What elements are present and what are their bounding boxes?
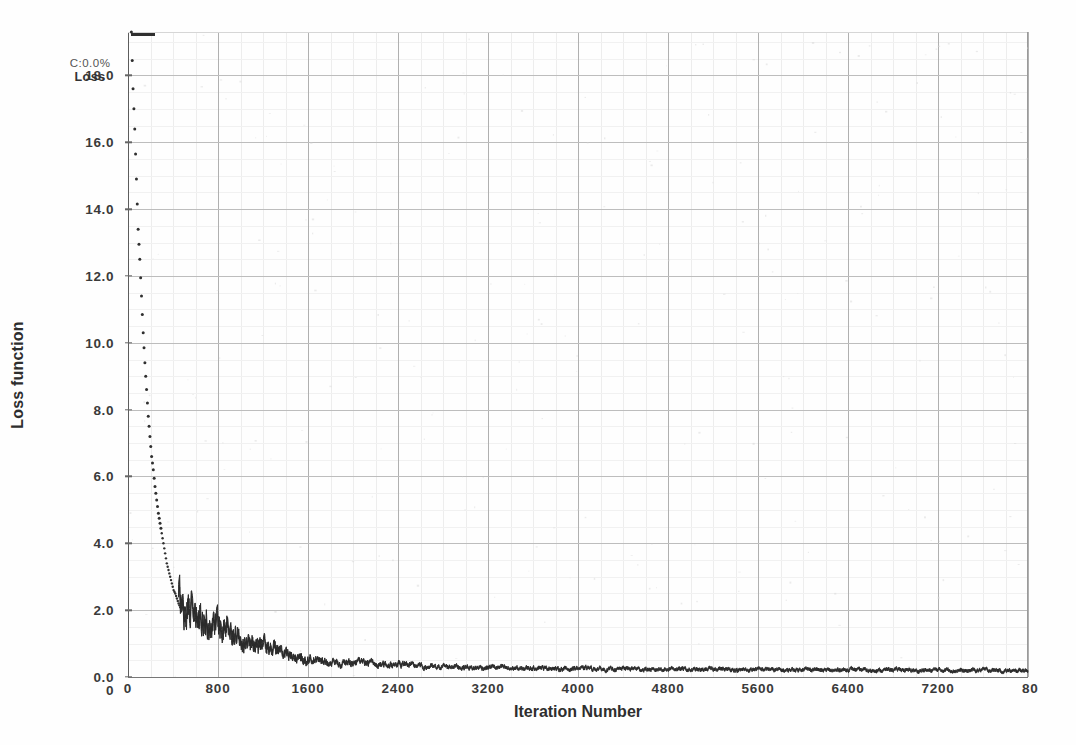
y-tick-label: 6.0	[58, 469, 114, 484]
data-point	[164, 552, 166, 554]
data-point	[156, 505, 159, 508]
data-point	[145, 388, 148, 391]
data-point	[158, 517, 161, 520]
data-point	[169, 576, 171, 578]
data-point	[136, 203, 139, 206]
x-tick-label: 80	[1022, 681, 1039, 696]
data-point	[150, 455, 153, 458]
x-origin-label: 0	[58, 683, 114, 698]
data-point	[148, 425, 151, 428]
data-point	[143, 346, 146, 349]
loss-curve-figure: 080016002400320040004800560064007200800.…	[0, 0, 1076, 745]
data-point	[174, 592, 176, 594]
data-point	[133, 127, 136, 130]
data-point	[171, 582, 173, 584]
data-point	[149, 445, 152, 448]
x-tick-label: 1600	[291, 681, 324, 696]
data-point	[144, 375, 147, 378]
data-point	[161, 532, 163, 534]
y-tick-label: 14.0	[58, 202, 114, 217]
data-point	[153, 477, 156, 480]
data-point	[162, 542, 164, 544]
x-tick-label: 3200	[471, 681, 504, 696]
data-point	[155, 498, 158, 501]
data-point	[157, 512, 160, 515]
x-tick-label: 0	[124, 681, 132, 696]
x-axis-line	[128, 677, 1028, 678]
data-point	[168, 572, 170, 574]
corner-annotation: C:0.0% Loss	[56, 56, 124, 86]
data-point	[159, 527, 162, 530]
loss-trace	[179, 575, 1028, 674]
data-point	[140, 295, 143, 298]
x-tick-label: 6400	[831, 681, 864, 696]
data-point	[166, 566, 168, 568]
data-point	[161, 537, 163, 539]
data-point	[138, 258, 141, 261]
data-point	[137, 243, 140, 246]
x-tick-label: 2400	[381, 681, 414, 696]
data-point	[152, 468, 155, 471]
data-point	[166, 562, 168, 564]
annotation-line-1: C:0.0%	[56, 56, 124, 70]
data-point	[172, 586, 174, 588]
data-point	[139, 276, 142, 279]
y-tick-label: 10.0	[58, 335, 114, 350]
data-point	[143, 361, 146, 364]
data-point	[165, 557, 167, 559]
data-point	[142, 331, 145, 334]
y-axis-title: Loss function	[9, 321, 27, 428]
data-point	[135, 178, 138, 181]
data-point	[154, 485, 157, 488]
x-tick-label: 5600	[741, 681, 774, 696]
data-point	[167, 569, 169, 571]
x-tick-label: 800	[206, 681, 231, 696]
data-point	[176, 597, 178, 599]
loss-series	[128, 32, 1028, 677]
annotation-line-2: Loss	[56, 70, 124, 86]
data-point	[170, 579, 172, 581]
data-point	[130, 31, 133, 34]
data-point	[134, 152, 137, 155]
data-point	[159, 522, 162, 525]
data-point	[163, 547, 165, 549]
x-tick-label: 4000	[561, 681, 594, 696]
data-point	[154, 492, 157, 495]
data-point	[177, 600, 179, 602]
y-tick-label: 2.0	[58, 603, 114, 618]
data-point	[131, 59, 134, 62]
data-point	[146, 401, 149, 404]
x-tick-label: 7200	[921, 681, 954, 696]
data-point	[151, 462, 154, 465]
data-point	[175, 595, 177, 597]
y-tick-label: 12.0	[58, 268, 114, 283]
x-axis-title: Iteration Number	[514, 703, 642, 721]
data-point	[137, 228, 140, 231]
data-point	[148, 435, 151, 438]
y-tick-label: 4.0	[58, 536, 114, 551]
y-tick-label: 8.0	[58, 402, 114, 417]
y-tick-label: 16.0	[58, 135, 114, 150]
x-tick-label: 4800	[651, 681, 684, 696]
data-point	[147, 415, 150, 418]
data-point	[141, 313, 144, 316]
data-point	[132, 87, 135, 90]
data-point	[132, 107, 135, 110]
